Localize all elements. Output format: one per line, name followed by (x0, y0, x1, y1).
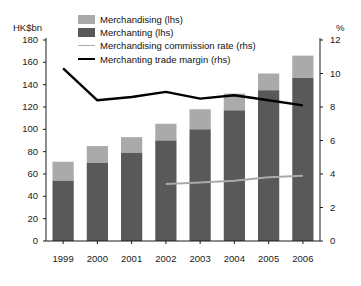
bar-merchanting-2001 (121, 153, 142, 241)
bar-merchanting-2005 (258, 90, 279, 241)
bar-merchanting-2003 (190, 129, 211, 241)
bar-merchandising-2006 (292, 56, 313, 78)
chart-plot-area (0, 0, 361, 286)
bar-merchandising-2002 (155, 124, 176, 141)
bar-merchandising-2001 (121, 137, 142, 153)
bar-merchanting-2006 (292, 78, 313, 241)
chart-container: HK$bn % Merchandising (lhs)Merchanting (… (0, 0, 361, 286)
bar-merchandising-2005 (258, 74, 279, 91)
bar-merchanting-2002 (155, 141, 176, 242)
bar-merchanting-2004 (224, 110, 245, 241)
bar-merchanting-1999 (53, 181, 74, 241)
bar-merchandising-2000 (87, 146, 108, 163)
bar-merchandising-2003 (190, 109, 211, 129)
bar-merchandising-1999 (53, 162, 74, 181)
bar-merchanting-2000 (87, 163, 108, 241)
